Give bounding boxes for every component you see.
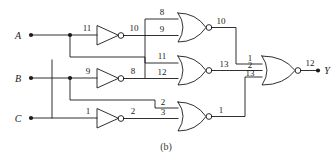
pin-label-c-inv-out: 2	[131, 106, 136, 116]
terminal-dot-c	[29, 116, 33, 120]
pin-label-nor-mid-out: 13	[220, 59, 230, 69]
pin-label-nor-top-in1: 8	[160, 7, 165, 17]
pin-label-nor-mid-in2: 12	[158, 67, 167, 77]
pin-label-b-inv-out: 8	[131, 66, 136, 76]
pin-label-nor-bot-in2: 3	[161, 107, 166, 117]
input-label-a: A	[14, 30, 22, 41]
pin-label-nor-bot-in1: 2	[161, 97, 166, 107]
pin-label-nor-top-in2: 9	[160, 24, 165, 34]
pin-label-nor-bot-out: 1	[219, 105, 224, 115]
pin-label-nor-final-out: 12	[306, 58, 315, 68]
input-label-c: C	[15, 113, 22, 124]
pin-label-nor-mid-in1: 11	[158, 51, 167, 61]
logic-circuit-diagram: A B C Y 11 10 9 8 1 2 8 9 10 11 12 13 2 …	[0, 0, 331, 160]
terminal-dot-y	[316, 68, 320, 72]
input-label-b: B	[15, 73, 21, 84]
pin-label-c-in: 1	[86, 106, 91, 116]
pin-label-a-in: 11	[83, 23, 92, 33]
figure-canvas: A B C Y 11 10 9 8 1 2 8 9 10 11 12 13 2 …	[0, 0, 331, 160]
pin-label-nor-top-out: 10	[217, 16, 227, 26]
diagram-background	[0, 0, 331, 160]
pin-label-b-in: 9	[86, 66, 91, 76]
figure-caption: (b)	[160, 141, 172, 153]
terminal-dot-b	[29, 76, 33, 80]
pin-label-nor-final-in3: 13	[246, 68, 256, 78]
terminal-dot-a	[29, 33, 33, 37]
pin-label-a-inv-out: 10	[130, 23, 140, 33]
